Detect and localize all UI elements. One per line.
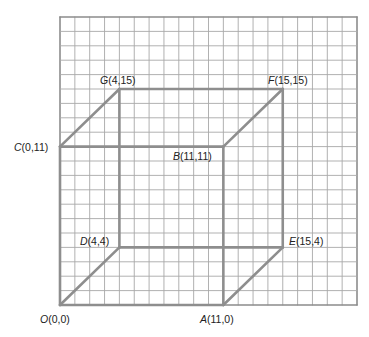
point-coords-d: (4,4) — [88, 235, 110, 247]
point-label-g: G(4,15) — [100, 75, 136, 86]
point-coords-c: (0,11) — [22, 141, 49, 153]
point-coords-e: (15,4) — [296, 235, 323, 247]
cube-edges — [60, 89, 283, 305]
point-label-f: F(15,15) — [268, 75, 308, 86]
point-letter-o: O — [40, 313, 48, 325]
point-coords-a: (11,0) — [207, 313, 234, 325]
grid-and-cube-figure — [0, 0, 369, 337]
point-letter-b: B — [173, 150, 180, 162]
point-coords-g: (4,15) — [108, 74, 135, 86]
point-coords-b: (11,11) — [180, 150, 212, 162]
point-label-o: O(0,0) — [40, 314, 70, 325]
point-letter-a: A — [200, 313, 207, 325]
point-label-a: A(11,0) — [200, 314, 234, 325]
point-label-c: C(0,11) — [14, 142, 48, 153]
point-label-b: B(11,11) — [173, 151, 212, 162]
point-letter-d: D — [80, 235, 88, 247]
point-letter-g: G — [100, 74, 108, 86]
point-letter-e: E — [289, 235, 296, 247]
diagram-canvas: O(0,0) A(11,0) B(11,11) C(0,11) D(4,4) E… — [0, 0, 369, 337]
point-label-e: E(15,4) — [289, 236, 323, 247]
point-label-d: D(4,4) — [80, 236, 109, 247]
point-coords-f: (15,15) — [274, 74, 307, 86]
point-letter-c: C — [14, 141, 22, 153]
point-coords-o: (0,0) — [48, 313, 70, 325]
